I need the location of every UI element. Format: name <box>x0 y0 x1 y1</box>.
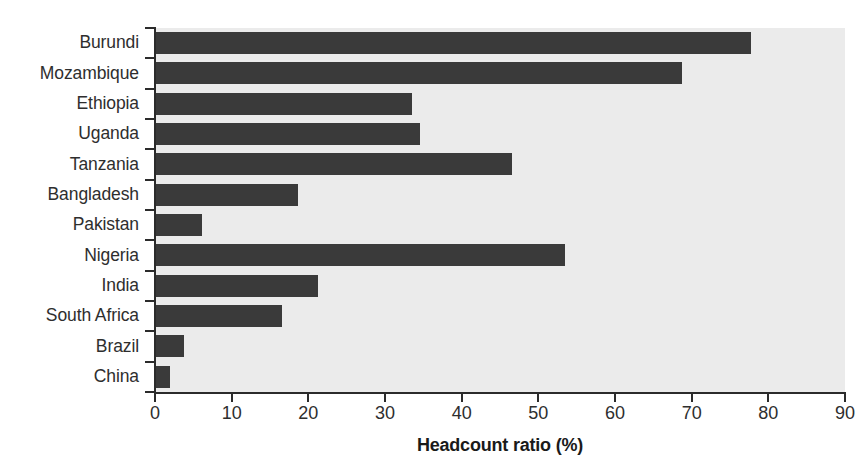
y-axis-label: Pakistan <box>0 210 147 240</box>
x-tick-label: 0 <box>150 404 160 422</box>
x-tick-label: 50 <box>528 404 548 422</box>
bar <box>155 244 565 266</box>
y-tick <box>145 270 155 272</box>
y-axis-label: South Africa <box>0 301 147 331</box>
y-axis-label: China <box>0 362 147 392</box>
bar-band <box>155 119 845 149</box>
x-tick <box>537 394 539 402</box>
y-tick <box>145 239 155 241</box>
x-tick-label: 20 <box>298 404 318 422</box>
x-tick-label: 70 <box>682 404 702 422</box>
bar <box>155 366 170 388</box>
bar-band <box>155 58 845 88</box>
bar <box>155 32 751 54</box>
bar-band <box>155 331 845 361</box>
x-tick-label: 40 <box>452 404 472 422</box>
bar <box>155 62 682 84</box>
x-tick-label: 10 <box>222 404 242 422</box>
y-tick <box>145 300 155 302</box>
x-tick <box>614 394 616 402</box>
x-tick <box>691 394 693 402</box>
bar-band <box>155 180 845 210</box>
x-tick <box>767 394 769 402</box>
bar-band <box>155 149 845 179</box>
y-axis-label: Bangladesh <box>0 180 147 210</box>
y-axis-label: Ethiopia <box>0 89 147 119</box>
bar <box>155 93 412 115</box>
y-tick <box>145 88 155 90</box>
y-axis-category-labels: BurundiMozambiqueEthiopiaUgandaTanzaniaB… <box>0 28 147 392</box>
y-tick <box>145 330 155 332</box>
y-axis-label: Tanzania <box>0 149 147 179</box>
y-tick <box>145 391 155 393</box>
bar-band <box>155 271 845 301</box>
x-tick-label: 90 <box>835 404 855 422</box>
plot-area <box>155 28 845 392</box>
x-tick-label: 80 <box>758 404 778 422</box>
y-tick <box>145 361 155 363</box>
bar-series <box>155 28 845 392</box>
y-axis-label: Brazil <box>0 331 147 361</box>
bar-band <box>155 89 845 119</box>
y-tick <box>145 209 155 211</box>
bar-chart: BurundiMozambiqueEthiopiaUgandaTanzaniaB… <box>0 0 859 476</box>
bar-band <box>155 28 845 58</box>
x-tick <box>844 394 846 402</box>
y-tick <box>145 179 155 181</box>
x-tick <box>154 394 156 402</box>
x-tick-label: 60 <box>605 404 625 422</box>
x-tick <box>461 394 463 402</box>
bar <box>155 335 184 357</box>
bar <box>155 214 202 236</box>
y-tick <box>145 57 155 59</box>
y-tick <box>145 148 155 150</box>
x-tick <box>231 394 233 402</box>
y-axis-label: Burundi <box>0 28 147 58</box>
bar <box>155 123 420 145</box>
y-tick <box>145 118 155 120</box>
x-axis-line <box>154 392 846 394</box>
bar-band <box>155 362 845 392</box>
x-tick-label: 30 <box>375 404 395 422</box>
bar <box>155 153 512 175</box>
bar <box>155 184 298 206</box>
y-axis-label: India <box>0 271 147 301</box>
y-tick <box>145 27 155 29</box>
bar-band <box>155 301 845 331</box>
bar <box>155 275 318 297</box>
x-axis-title: Headcount ratio (%) <box>155 436 845 454</box>
x-tick <box>307 394 309 402</box>
y-axis-label: Uganda <box>0 119 147 149</box>
bar-band <box>155 240 845 270</box>
x-tick <box>384 394 386 402</box>
y-axis-label: Nigeria <box>0 240 147 270</box>
y-axis-label: Mozambique <box>0 58 147 88</box>
bar <box>155 305 282 327</box>
bar-band <box>155 210 845 240</box>
